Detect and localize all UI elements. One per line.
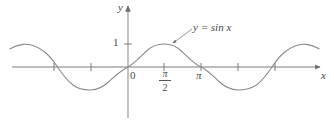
axis-label-y: y: [118, 2, 123, 13]
half-pi-denominator: 2: [158, 82, 172, 93]
fraction-bar: [159, 80, 171, 81]
plot-canvas: [0, 0, 334, 120]
x-tick-label-half-pi: π 2: [158, 69, 172, 93]
x-tick-label-pi: π: [196, 70, 202, 81]
y-tick-label-one: 1: [113, 37, 119, 48]
sine-function-figure: y x 1 0 π 2 π y = sin x: [0, 0, 334, 120]
half-pi-numerator: π: [158, 69, 172, 79]
curve-annotation-label: y = sin x: [193, 22, 231, 33]
axis-label-x: x: [321, 70, 326, 81]
origin-label-zero: 0: [130, 70, 136, 81]
annotation-leader-line: [173, 29, 192, 43]
